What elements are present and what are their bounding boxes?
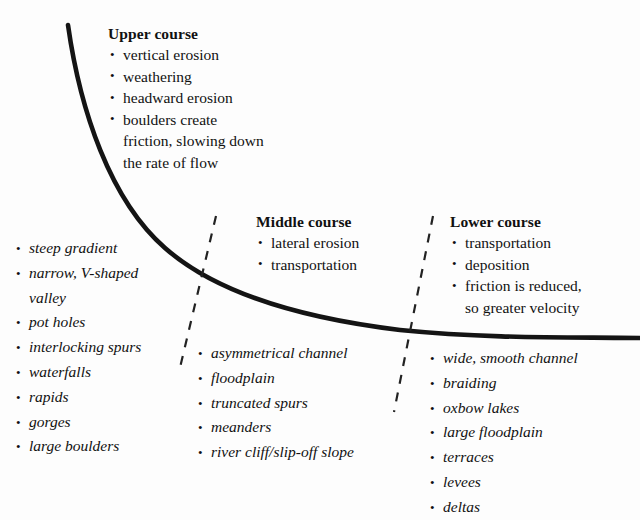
- upper-course-feature-block: steep gradient narrow, V-shapedvalley po…: [14, 236, 194, 459]
- lower-course-heading: Lower course: [450, 212, 640, 232]
- lower-course-process-block: Lower course transportation deposition f…: [450, 212, 640, 318]
- list-item-continuation: valley: [29, 286, 194, 311]
- middle-course-feature-block: asymmetrical channel floodplain truncate…: [196, 341, 401, 465]
- list-item-continuation: the rate of flow: [123, 152, 323, 174]
- list-item: terraces: [428, 445, 633, 470]
- list-item: waterfalls: [14, 360, 194, 385]
- list-item: large floodplain: [428, 420, 633, 445]
- list-item: lateral erosion: [256, 232, 431, 254]
- middle-course-process-list: lateral erosion transportation: [256, 232, 431, 275]
- lower-course-feature-block: wide, smooth channel braiding oxbow lake…: [428, 346, 633, 520]
- middle-course-heading: Middle course: [256, 212, 431, 232]
- list-item: headward erosion: [108, 87, 323, 109]
- list-item: transportation: [256, 254, 431, 276]
- list-item: large boulders: [14, 434, 194, 459]
- upper-course-process-block: Upper course vertical erosion weathering…: [108, 24, 323, 173]
- river-long-profile-diagram: Upper course vertical erosion weathering…: [0, 0, 640, 520]
- list-item: deltas: [428, 495, 633, 520]
- list-item: weathering: [108, 66, 323, 88]
- lower-course-process-list: transportation deposition friction is re…: [450, 232, 640, 318]
- upper-course-process-list: vertical erosion weathering headward ero…: [108, 44, 323, 173]
- list-item: rapids: [14, 385, 194, 410]
- lower-course-feature-list: wide, smooth channel braiding oxbow lake…: [428, 346, 633, 520]
- list-item: narrow, V-shapedvalley: [14, 261, 194, 311]
- list-item: asymmetrical channel: [196, 341, 401, 366]
- list-item-continuation: so greater velocity: [465, 297, 640, 319]
- list-item-text: boulders create: [123, 111, 217, 128]
- list-item: river cliff/slip-off slope: [196, 440, 401, 465]
- list-item: boulders createfriction, slowing downthe…: [108, 109, 323, 174]
- list-item: oxbow lakes: [428, 396, 633, 421]
- list-item-text: narrow, V-shaped: [29, 264, 138, 281]
- list-item: floodplain: [196, 366, 401, 391]
- list-item-text: friction is reduced,: [465, 277, 582, 294]
- upper-course-feature-list: steep gradient narrow, V-shapedvalley po…: [14, 236, 194, 459]
- list-item: truncated spurs: [196, 391, 401, 416]
- list-item: wide, smooth channel: [428, 346, 633, 371]
- list-item: steep gradient: [14, 236, 194, 261]
- list-item: vertical erosion: [108, 44, 323, 66]
- list-item: deposition: [450, 254, 640, 276]
- list-item: interlocking spurs: [14, 335, 194, 360]
- list-item: gorges: [14, 410, 194, 435]
- list-item: friction is reduced,so greater velocity: [450, 275, 640, 318]
- list-item: levees: [428, 470, 633, 495]
- middle-course-process-block: Middle course lateral erosion transporta…: [256, 212, 431, 275]
- list-item-continuation: friction, slowing down: [123, 130, 323, 152]
- list-item: meanders: [196, 415, 401, 440]
- list-item: braiding: [428, 371, 633, 396]
- upper-course-heading: Upper course: [108, 24, 323, 44]
- list-item: transportation: [450, 232, 640, 254]
- middle-course-feature-list: asymmetrical channel floodplain truncate…: [196, 341, 401, 465]
- list-item: pot holes: [14, 310, 194, 335]
